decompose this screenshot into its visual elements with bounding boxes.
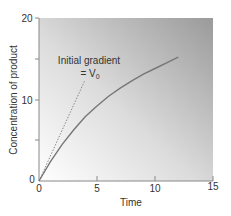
- x-tick-label: 5: [94, 183, 100, 194]
- x-tick-label: 15: [207, 181, 219, 192]
- y-tick-label: 20: [21, 13, 33, 24]
- annotation-initial-gradient: Initial gradient: [58, 55, 120, 66]
- plot-area: [39, 18, 213, 181]
- x-axis-label: Time: [120, 197, 142, 208]
- y-tick-label: 0: [29, 174, 35, 185]
- x-tick-label: 10: [149, 183, 161, 194]
- x-tick-label: 0: [36, 183, 42, 194]
- chart: 20 10 0 0 5 10 15 Time Concentration of …: [0, 0, 231, 216]
- y-axis-label: Concentration of product: [8, 45, 19, 155]
- y-tick-label: 10: [21, 95, 33, 106]
